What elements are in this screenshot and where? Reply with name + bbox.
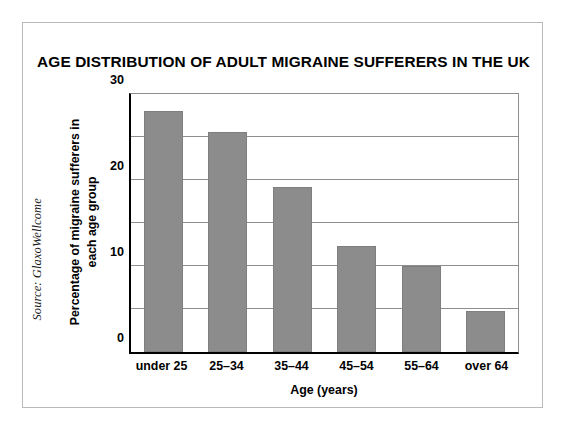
bar[interactable] bbox=[337, 246, 376, 352]
x-axis-tick-labels: under 2525–3435–4445–5455–64over 64 bbox=[129, 359, 519, 373]
x-tick-label: 55–64 bbox=[389, 359, 454, 373]
bars-layer bbox=[131, 94, 518, 352]
source-credit: Source: GlaxoWellcome bbox=[30, 181, 45, 321]
bar[interactable] bbox=[144, 111, 183, 352]
figure-frame: AGE DISTRIBUTION OF ADULT MIGRAINE SUFFE… bbox=[22, 22, 543, 408]
x-axis-title: Age (years) bbox=[129, 383, 519, 397]
y-tick-label-10: 10 bbox=[110, 245, 124, 259]
bar-slot bbox=[260, 94, 325, 352]
x-tick-label: under 25 bbox=[129, 359, 194, 373]
y-tick-label-0: 0 bbox=[117, 331, 124, 345]
bar-slot bbox=[454, 94, 519, 352]
bar-slot bbox=[389, 94, 454, 352]
x-tick-label: 45–54 bbox=[324, 359, 389, 373]
y-axis-title-line-2: each age group bbox=[84, 117, 101, 327]
bar-slot bbox=[131, 94, 196, 352]
plot-area: 0102030 bbox=[129, 93, 519, 354]
bar[interactable] bbox=[466, 311, 505, 352]
bar[interactable] bbox=[208, 132, 247, 352]
x-tick-label: 35–44 bbox=[259, 359, 324, 373]
y-tick-label-20: 20 bbox=[110, 159, 124, 173]
x-tick-label: 25–34 bbox=[194, 359, 259, 373]
y-axis-title: Percentage of migraine sufferers in each… bbox=[67, 117, 101, 327]
bar-slot bbox=[196, 94, 261, 352]
bar[interactable] bbox=[402, 266, 441, 352]
y-tick-label-30: 30 bbox=[110, 73, 124, 87]
y-axis-title-line-1: Percentage of migraine sufferers in bbox=[67, 117, 84, 327]
x-tick-label: over 64 bbox=[454, 359, 519, 373]
bar-slot bbox=[325, 94, 390, 352]
chart-title: AGE DISTRIBUTION OF ADULT MIGRAINE SUFFE… bbox=[23, 53, 544, 71]
bar[interactable] bbox=[273, 187, 312, 352]
